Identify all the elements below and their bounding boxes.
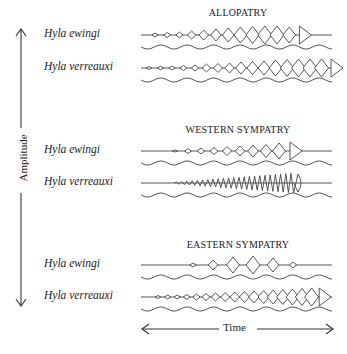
section-title-allopatry: ALLOPATRY xyxy=(138,7,338,18)
time-axis-label: Time xyxy=(219,321,250,333)
pulse xyxy=(223,147,232,156)
pulse xyxy=(246,27,259,44)
pulse xyxy=(185,149,192,154)
pulse xyxy=(273,143,286,159)
pulse-end xyxy=(290,142,302,160)
species-label: Hyla verreauxi xyxy=(44,289,113,301)
species-label: Hyla ewingi xyxy=(44,143,100,155)
pulse xyxy=(270,26,284,44)
reference-sine-wave xyxy=(141,307,332,311)
section-title-eastern-sympatry: EASTERN SYMPATRY xyxy=(138,239,338,250)
pulse xyxy=(267,258,279,272)
pulse xyxy=(191,65,198,71)
pulse xyxy=(234,27,247,43)
pulse xyxy=(225,63,235,73)
reference-sine-wave xyxy=(141,45,332,49)
pulse xyxy=(315,59,329,77)
pulse xyxy=(248,145,259,157)
pulse xyxy=(239,292,249,303)
pulse xyxy=(202,64,210,72)
species-label: Hyla ewingi xyxy=(44,27,100,39)
pulse xyxy=(197,148,204,154)
pulse xyxy=(176,32,183,38)
pulse xyxy=(283,27,296,43)
pulse xyxy=(164,33,171,38)
pulse xyxy=(183,295,190,300)
pulse xyxy=(260,145,271,158)
reference-sine-wave xyxy=(141,193,332,197)
pulse xyxy=(180,66,187,71)
pulse xyxy=(247,62,258,75)
pulse xyxy=(214,64,223,73)
pulse xyxy=(246,256,260,274)
pulse xyxy=(169,66,175,70)
pulse xyxy=(210,148,218,155)
pulse xyxy=(208,260,218,270)
pulse xyxy=(211,293,219,301)
pulse xyxy=(190,263,196,267)
pulse xyxy=(165,295,171,299)
species-label: Hyla verreauxi xyxy=(44,175,113,187)
pulse-end xyxy=(299,26,311,44)
pulse-end xyxy=(331,59,343,77)
dense-pulse-train xyxy=(174,173,301,193)
pulse xyxy=(152,33,158,37)
pulse xyxy=(172,150,177,152)
species-label: Hyla ewingi xyxy=(44,257,100,269)
pulse xyxy=(174,295,180,299)
pulse xyxy=(258,61,270,75)
pulse xyxy=(193,294,200,300)
pulse xyxy=(235,146,245,156)
reference-sine-wave xyxy=(141,275,332,279)
section-title-western-sympatry: WESTERN SYMPATRY xyxy=(138,124,338,135)
pulse xyxy=(158,66,164,70)
amplitude-axis-label: Amplitude xyxy=(17,129,29,187)
pulse xyxy=(227,257,240,273)
pulse xyxy=(211,29,222,41)
pulse xyxy=(222,28,234,42)
pulse xyxy=(202,294,210,301)
pulse xyxy=(187,31,195,39)
pulse xyxy=(146,67,152,70)
reference-sine-wave xyxy=(141,161,332,165)
pulse xyxy=(236,62,247,74)
pulse xyxy=(155,296,161,299)
pulse xyxy=(230,292,240,302)
pulse xyxy=(221,293,230,302)
species-label: Hyla verreauxi xyxy=(44,60,113,72)
pulse xyxy=(289,262,296,268)
reference-sine-wave xyxy=(141,78,332,82)
pulse xyxy=(305,288,319,306)
pulse-end xyxy=(319,288,331,306)
pulse xyxy=(199,30,209,40)
